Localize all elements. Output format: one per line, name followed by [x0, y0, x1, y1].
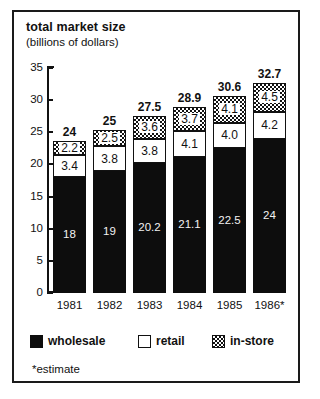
bar-total-label: 25: [87, 114, 133, 128]
bar-segment-wholesale: 21.1: [173, 157, 206, 293]
bar-segment-instore: 4.5: [253, 83, 286, 112]
bar-segment-instore: 2.2: [53, 141, 86, 155]
bar-segment-retail: 4.0: [213, 123, 246, 149]
legend-swatch-icon: [138, 335, 151, 348]
bar-total-label: 32.7: [247, 67, 293, 81]
bar-segment-retail: 3.4: [53, 155, 86, 177]
y-tick-label: 5: [21, 254, 43, 266]
segment-value-label: 4.1: [181, 138, 198, 150]
segment-value-label: 3.7: [179, 113, 200, 125]
bar-segment-retail: 3.8: [93, 146, 126, 170]
bar-segment-retail: 4.1: [173, 131, 206, 157]
y-tick-mark: [47, 99, 53, 101]
stacked-bar: 22.54.04.1: [213, 96, 246, 293]
y-tick-label: 25: [21, 125, 43, 137]
segment-value-label: 19: [103, 226, 116, 238]
segment-value-label: 3.8: [141, 145, 158, 157]
bar-segment-retail: 3.8: [133, 139, 166, 163]
segment-value-label: 18: [63, 229, 76, 241]
y-tick-label: 30: [21, 93, 43, 105]
segment-value-label: 20.2: [138, 222, 160, 234]
y-tick-label: 10: [21, 222, 43, 234]
y-tick-label: 15: [21, 190, 43, 202]
y-tick-label: 20: [21, 157, 43, 169]
bar-total-label: 30.6: [207, 80, 253, 94]
segment-value-label: 3.6: [139, 121, 160, 133]
legend-swatch-icon: [30, 335, 43, 348]
segment-value-label: 24: [263, 210, 276, 222]
bar-segment-instore: 3.7: [173, 107, 206, 131]
y-tick-mark: [47, 67, 53, 69]
segment-value-label: 2.5: [99, 132, 120, 144]
segment-value-label: 4.2: [261, 119, 278, 131]
bar-segment-wholesale: 20.2: [133, 163, 166, 293]
legend-swatch-icon: [212, 335, 225, 348]
bar-segment-wholesale: 24: [253, 139, 286, 293]
legend-label: in-store: [230, 334, 274, 348]
bar-segment-wholesale: 22.5: [213, 148, 246, 293]
x-axis-label: 1986*: [247, 299, 293, 311]
stacked-bar: 193.82.5: [93, 130, 126, 293]
segment-value-label: 3.8: [101, 153, 118, 165]
stacked-bar: 20.23.83.6: [133, 116, 166, 293]
legend-label: retail: [156, 334, 185, 348]
chart-legend: wholesaleretailin-store: [30, 334, 280, 354]
footnote: *estimate: [32, 363, 80, 375]
segment-value-label: 4.0: [221, 129, 238, 141]
legend-item-retail[interactable]: retail: [138, 334, 185, 348]
legend-item-in-store[interactable]: in-store: [212, 334, 274, 348]
stacked-bar: 183.42.2: [53, 141, 86, 293]
stacked-bar: 244.24.5: [253, 83, 286, 293]
bar-segment-instore: 3.6: [133, 116, 166, 139]
bar-segment-wholesale: 19: [93, 171, 126, 293]
legend-label: wholesale: [48, 334, 105, 348]
segment-value-label: 4.1: [219, 103, 240, 115]
stacked-bar: 21.14.13.7: [173, 107, 206, 293]
bar-segment-instore: 2.5: [93, 130, 126, 146]
y-tick-label: 0: [21, 286, 43, 298]
segment-value-label: 22.5: [218, 215, 240, 227]
segment-value-label: 21.1: [178, 219, 200, 231]
segment-value-label: 4.5: [259, 91, 280, 103]
segment-value-label: 3.4: [61, 160, 78, 172]
bar-segment-retail: 4.2: [253, 112, 286, 139]
legend-item-wholesale[interactable]: wholesale: [30, 334, 105, 348]
y-tick-label: 35: [21, 61, 43, 73]
bar-segment-wholesale: 18: [53, 177, 86, 293]
bar-segment-instore: 4.1: [213, 96, 246, 122]
segment-value-label: 2.2: [59, 142, 80, 154]
